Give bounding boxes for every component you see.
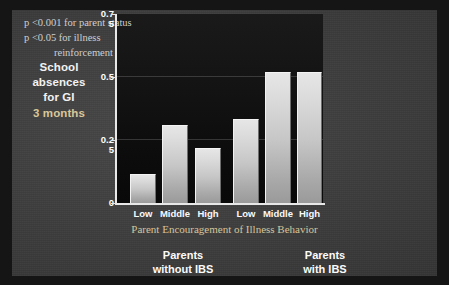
group-label-with-ibs-line1: Parents [250, 248, 400, 262]
y-axis-tickmark-0_75 [111, 14, 116, 15]
y-axis-tick-0_75: 0.7 5 [88, 9, 114, 28]
group-label-with-ibs-line2: with IBS [250, 262, 400, 276]
x-axis-title: Parent Encouragement of Illness Behavior [107, 223, 342, 235]
y-axis-tick-0_75-line2: 5 [88, 19, 114, 29]
plot-area [117, 14, 323, 203]
y-axis-tick-labels: 0.7 5 0.5 0.2 5 0 [88, 10, 114, 276]
slide-surface: School absences for GI 3 months 0.7 5 0.… [12, 10, 437, 276]
group-label-with-ibs: Parents with IBS [250, 248, 400, 277]
x-axis-tick-3-high: High [187, 208, 229, 219]
gridline-0_5 [117, 76, 323, 77]
bar-1-low[interactable] [130, 174, 156, 203]
slide-frame: School absences for GI 3 months 0.7 5 0.… [0, 0, 449, 285]
group-label-without-ibs-line2: without IBS [108, 262, 258, 276]
y-axis-tickmark-0 [111, 203, 116, 204]
bar-3-high[interactable] [195, 148, 221, 203]
plot-area-wrapper [117, 14, 323, 203]
bar-2-middle[interactable] [162, 125, 188, 203]
x-axis-tick-labels: LowMiddleHighLowMiddleHigh [117, 208, 325, 222]
y-axis-tick-0_25-line2: 5 [88, 145, 114, 155]
x-axis-line [115, 203, 325, 205]
bar-4-low[interactable] [233, 119, 259, 203]
y-axis-tickmark-0_25 [111, 140, 116, 141]
bar-6-high[interactable] [297, 72, 322, 203]
y-axis-tick-0_25: 0.2 5 [88, 135, 114, 154]
chart-screenshot: School absences for GI 3 months 0.7 5 0.… [0, 0, 449, 285]
group-label-without-ibs-line1: Parents [108, 248, 258, 262]
y-axis-line [115, 14, 117, 205]
gridline-0_25 [117, 139, 323, 140]
y-axis-tickmark-0_5 [111, 77, 116, 78]
bar-5-middle[interactable] [265, 72, 291, 203]
group-label-without-ibs: Parents without IBS [108, 248, 258, 277]
x-axis-tick-6-high: High [289, 208, 330, 219]
